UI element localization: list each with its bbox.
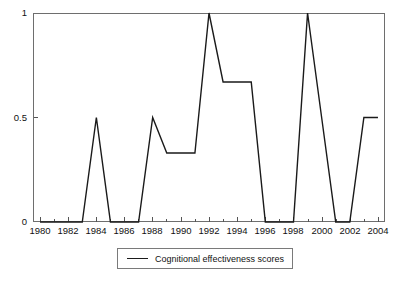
y-tick-label-1: 1 bbox=[22, 8, 27, 18]
x-tick-label-2004: 2004 bbox=[367, 226, 388, 236]
chart-legend: Cognitional effectiveness scores bbox=[117, 248, 293, 269]
y-axis-labels: 1 0.5 0 bbox=[0, 0, 33, 287]
plot-area bbox=[33, 13, 385, 222]
legend-line-swatch-icon bbox=[127, 258, 148, 259]
x-tick-label-1994: 1994 bbox=[226, 226, 247, 236]
x-tick-label-1990: 1990 bbox=[170, 226, 191, 236]
x-tick-label-1998: 1998 bbox=[282, 226, 303, 236]
x-tick-label-1988: 1988 bbox=[141, 226, 162, 236]
x-tick-label-1992: 1992 bbox=[198, 226, 219, 236]
legend-entry-label: Cognitional effectiveness scores bbox=[155, 254, 284, 264]
chart-figure: 1 0.5 0 bbox=[0, 0, 410, 287]
x-tick-label-1984: 1984 bbox=[85, 226, 106, 236]
x-tick-label-2002: 2002 bbox=[339, 226, 360, 236]
y-tick-label-0point5: 0.5 bbox=[14, 113, 27, 123]
x-tick-label-2000: 2000 bbox=[311, 226, 332, 236]
x-tick-label-1996: 1996 bbox=[254, 226, 275, 236]
x-tick-label-1980: 1980 bbox=[29, 226, 50, 236]
x-tick-label-1986: 1986 bbox=[113, 226, 134, 236]
series-canvas bbox=[33, 13, 385, 222]
series-line-cognitional-effectiveness-scores bbox=[40, 13, 378, 222]
x-axis-labels: 1980 1982 1984 1986 1988 1990 1992 1994 … bbox=[0, 226, 410, 240]
x-tick-label-1982: 1982 bbox=[57, 226, 78, 236]
